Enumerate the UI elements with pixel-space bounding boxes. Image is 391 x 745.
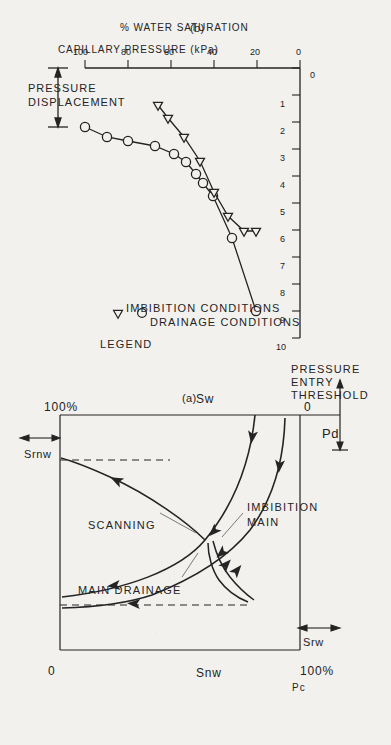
srw-bracket (298, 625, 340, 631)
panel-b-xtick-100: 100 (73, 48, 88, 57)
panel-a-threshold-line1: THRESHOLD (291, 390, 369, 401)
panel-b-ytick-3: 3 (280, 154, 285, 163)
panel-b-pressure-ticks (292, 68, 300, 338)
panel-a-bottom-axis-tick-0: 0 (304, 401, 311, 413)
panel-b-x-axis-label: % WATER SATURATION (120, 23, 249, 33)
displacement-pressure-line1: DISPLACEMENT (28, 97, 126, 108)
imbibition-series-line (158, 105, 256, 231)
legend-item-drainage-label: DRAINAGE CONDITIONS (150, 317, 300, 328)
panel-b-ytick-2: 2 (280, 127, 285, 136)
panel-a-srw-label: Srw (303, 637, 324, 648)
legend-item-imbibition-label: IMBIBITION CONDITIONS (126, 303, 281, 314)
displacement-pressure-line2: PRESSURE (28, 83, 97, 94)
panel-b-ytick-0: 0 (310, 71, 315, 80)
panel-a-srnw-label: Srnw (24, 449, 51, 460)
panel-a-bottom-axis-tick-100: 100% (44, 401, 78, 413)
panel-b-ytick-7: 7 (280, 262, 285, 271)
panel-b-tag: (b) (190, 23, 204, 34)
figure-rotated-canvas: Pc Snw Sw 0 100% 0 100% Srnw Srw MAIN DR… (0, 0, 391, 745)
panel-b-ytick-10: 10 (276, 343, 286, 352)
panel-b-saturation-ticks (85, 60, 300, 68)
panel-b-xtick-80: 80 (121, 48, 131, 57)
legend-triangle-marker (114, 310, 123, 318)
panel-b-xtick-40: 40 (207, 48, 217, 57)
panel-b-ytick-8: 8 (280, 289, 285, 298)
panel-a-pd-label: Pd (322, 427, 339, 440)
panel-a-tag: (a) (182, 393, 196, 404)
panel-b-ytick-6: 6 (280, 235, 285, 244)
panel-a-threshold-line2: ENTRY (291, 377, 334, 388)
drainage-series-markers (80, 122, 260, 315)
panel-a-top-axis-tick-0: 0 (48, 665, 55, 677)
panel-a-y-axis-label: Pc (292, 683, 306, 693)
panel-b-xtick-20: 20 (250, 48, 260, 57)
panel-a-top-axis-tick-100: 100% (300, 665, 334, 677)
legend-title: LEGEND (100, 339, 152, 350)
panel-a: Pc Snw Sw 0 100% 0 100% Srnw Srw MAIN DR… (0, 373, 391, 745)
panel-a-main-drainage-label: MAIN DRAINAGE (78, 585, 182, 596)
panel-b: CAPILLARY PRESSURE (kPa) % WATER SATURAT… (0, 0, 391, 373)
panel-a-main-imbibition-line2: IMBIBITION (247, 502, 318, 513)
imbibition-series-markers (154, 102, 261, 236)
panel-a-top-axis-label: Snw (196, 667, 222, 679)
panel-b-xtick-0: 0 (296, 48, 301, 57)
panel-b-ytick-5: 5 (280, 208, 285, 217)
panel-a-scanning-label: SCANNING (88, 520, 156, 531)
panel-a-main-imbibition-line1: MAIN (247, 517, 279, 528)
panel-b-xtick-60: 60 (164, 48, 174, 57)
panel-b-ytick-4: 4 (280, 181, 285, 190)
figure-page: Pc Snw Sw 0 100% 0 100% Srnw Srw MAIN DR… (0, 0, 391, 745)
panel-a-bottom-axis-label: Sw (196, 393, 214, 405)
main-imbibition-curve (62, 418, 285, 608)
panel-b-ytick-1: 1 (280, 100, 285, 109)
